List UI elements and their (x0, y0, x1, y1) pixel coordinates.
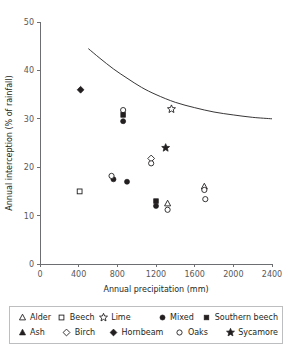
legend-row: Alder Beech Lime Mixed Southern beech (16, 310, 278, 325)
y-tick-label: 40 (24, 66, 34, 75)
open-diamond-icon (61, 327, 73, 339)
axis-frame-line (40, 22, 272, 264)
data-point-southern-beech (121, 113, 126, 118)
data-point-lime (167, 105, 175, 113)
trend-line (88, 49, 272, 119)
data-point-oaks (121, 107, 126, 112)
legend-item-lime: Lime (97, 312, 156, 324)
legend-item-alder: Alder (16, 312, 56, 324)
data-point-southern-beech (154, 199, 159, 204)
x-tick-label: 1200 (146, 270, 166, 279)
data-point-oaks (202, 187, 207, 192)
y-axis-ticks: 01020304050 (24, 18, 40, 269)
open-circle-icon (174, 327, 186, 339)
open-triangle-icon (16, 312, 28, 324)
data-point-beech (77, 189, 82, 194)
y-tick-label: 50 (24, 18, 34, 27)
filled-diamond-icon (108, 327, 120, 339)
legend-item-mixed: Mixed (156, 312, 201, 324)
data-points-group (77, 86, 208, 212)
legend-item-southern-beech: Southern beech (201, 312, 278, 324)
open-star-icon (97, 312, 109, 324)
data-point-hornbeam (77, 86, 84, 93)
legend-label: Oaks (186, 328, 208, 337)
x-tick-label: 2000 (223, 270, 243, 279)
legend-label: Birch (73, 328, 95, 337)
data-point-oaks (165, 207, 170, 212)
y-tick-label: 20 (24, 163, 34, 172)
filled-square-icon (201, 312, 213, 324)
x-tick-label: 1600 (184, 270, 204, 279)
y-tick-label: 30 (24, 115, 34, 124)
scatter-plot: 01020304050 04008001200160020002400 Annu… (0, 0, 292, 300)
legend-label: Alder (28, 313, 51, 322)
y-tick-label: 0 (29, 260, 34, 269)
data-point-oaks (149, 161, 154, 166)
plot-frame (40, 22, 272, 264)
filled-circle-icon (156, 312, 168, 324)
filled-star-icon (224, 327, 236, 339)
y-axis-title: Annual interception (% of rainfall) (5, 75, 14, 210)
data-point-alder (165, 200, 171, 206)
legend-row: Ash Birch Hornbeam Oaks Sycamore (16, 325, 278, 340)
x-axis-title: Annual precipitation (mm) (103, 285, 208, 294)
legend-label: Sycamore (236, 328, 278, 337)
chart-figure: 01020304050 04008001200160020002400 Annu… (0, 0, 292, 354)
x-tick-label: 800 (110, 270, 125, 279)
chart-legend: Alder Beech Lime Mixed Southern beech (9, 306, 283, 344)
x-tick-label: 400 (71, 270, 86, 279)
data-point-sycamore (162, 144, 170, 152)
x-tick-label: 2400 (262, 270, 282, 279)
legend-label: Ash (28, 328, 45, 337)
legend-label: Hornbeam (120, 328, 164, 337)
x-axis-ticks: 04008001200160020002400 (37, 264, 282, 279)
data-point-mixed (121, 119, 126, 124)
legend-item-hornbeam: Hornbeam (108, 327, 174, 339)
data-point-oaks (203, 197, 208, 202)
data-point-oaks (109, 173, 114, 178)
legend-item-oaks: Oaks (174, 327, 224, 339)
legend-label: Lime (109, 313, 130, 322)
legend-label: Beech (68, 313, 95, 322)
filled-triangle-icon (16, 327, 28, 339)
legend-item-ash: Ash (16, 327, 61, 339)
legend-label: Mixed (168, 313, 194, 322)
legend-item-beech: Beech (56, 312, 97, 324)
data-point-mixed (154, 203, 159, 208)
legend-item-sycamore: Sycamore (224, 327, 278, 339)
legend-label: Southern beech (213, 313, 278, 322)
open-square-icon (56, 312, 68, 324)
x-tick-label: 0 (37, 270, 42, 279)
data-point-mixed (125, 179, 130, 184)
legend-item-birch: Birch (61, 327, 108, 339)
y-tick-label: 10 (24, 212, 34, 221)
